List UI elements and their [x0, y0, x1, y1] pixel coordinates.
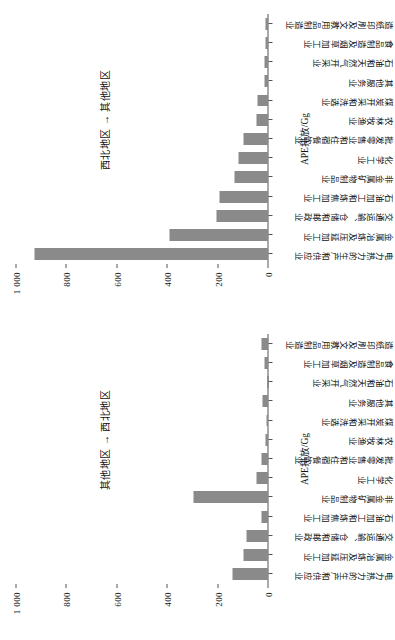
axis-tick-label: 1 000	[11, 592, 21, 614]
bar-column	[16, 411, 267, 430]
bar-column	[16, 91, 267, 110]
bar-column	[16, 488, 267, 507]
category-label: 石油加工和炼焦加工业	[272, 512, 392, 521]
category-tick	[268, 400, 272, 401]
category-label-cell: 化学工业	[272, 149, 392, 168]
value-axis-line-left	[267, 14, 268, 264]
plot-area-right: 02004006008001 000	[16, 334, 268, 584]
axis-tick	[217, 584, 218, 588]
category-tick	[268, 80, 272, 81]
axis-tick	[116, 584, 117, 588]
category-label: 煤炭开采和洗选业	[272, 416, 392, 425]
bar	[234, 171, 267, 183]
axis-tick	[65, 584, 66, 588]
category-label: 非金属矿物制品业	[272, 173, 392, 182]
category-label: 煤炭开采和洗选业	[272, 96, 392, 105]
category-label: 石油和天然气开采业	[272, 58, 392, 67]
bar	[246, 530, 267, 542]
category-tick	[268, 516, 272, 517]
bar-column	[16, 245, 267, 264]
bar	[264, 357, 268, 369]
category-tick	[268, 458, 272, 459]
category-label: 造纸印刷及文教用品制造业	[272, 339, 392, 348]
category-tick	[268, 253, 272, 254]
category-label: 食品制造及烟草加工业	[272, 358, 392, 367]
bar-column	[16, 430, 267, 449]
bar-column	[16, 168, 267, 187]
bar-column	[16, 392, 267, 411]
bar-column	[16, 565, 267, 584]
category-label: 化学工业	[272, 154, 392, 163]
panel-annotation-right: 其他地区 → 西北地区	[96, 390, 111, 491]
bar	[216, 210, 267, 222]
category-tick	[268, 477, 272, 478]
bar	[261, 338, 267, 350]
bar	[238, 152, 267, 164]
category-label: 食品制造及烟草加工业	[272, 38, 392, 47]
bar-column	[16, 334, 267, 353]
category-label-cell: 石油加工和炼焦加工业	[272, 507, 392, 526]
axis-tick-label: 800	[61, 272, 71, 287]
category-label: 电力热力的生产和供应业	[272, 570, 392, 579]
bar-column	[16, 110, 267, 129]
bar-column	[16, 469, 267, 488]
bar	[264, 75, 268, 87]
axis-tick-label: 1 000	[11, 272, 21, 294]
category-label: 金属冶炼及压延加工业	[272, 231, 392, 240]
bar-column	[16, 507, 267, 526]
category-label-cell: 非金属矿物制品业	[272, 488, 392, 507]
category-label: 农林牧渔业	[272, 435, 392, 444]
category-tick	[268, 119, 272, 120]
category-label-cell: 造纸印刷及文教用品制造业	[272, 14, 392, 33]
bar-column	[16, 52, 267, 71]
bar-column	[16, 546, 267, 565]
axis-tick	[267, 264, 268, 268]
category-tick	[268, 439, 272, 440]
bar	[261, 511, 267, 523]
category-label-cell: 非金属矿物制品业	[272, 168, 392, 187]
category-label-cell: 农林牧渔业	[272, 430, 392, 449]
axis-tick	[15, 584, 16, 588]
category-tick	[268, 362, 272, 363]
category-label-cell: 化学工业	[272, 469, 392, 488]
chart-panel-northwest-to-other: 02004006008001 000 电力热力的生产和供应业金属冶炼及压延加工业…	[0, 0, 395, 320]
category-tick	[268, 23, 272, 24]
bar	[262, 395, 267, 407]
category-tick	[268, 61, 272, 62]
category-label-cell: 电力热力的生产和供应业	[272, 245, 392, 264]
category-label: 农林牧渔业	[272, 115, 392, 124]
axis-tick-label: 800	[61, 592, 71, 607]
category-label-cell: 交通运输、仓储和邮政业	[272, 526, 392, 545]
category-label: 电力热力的生产和供应业	[272, 250, 392, 259]
category-label: 批发零售业和住宿餐饮业	[272, 135, 392, 144]
category-label: 其他服务业	[272, 77, 392, 86]
category-label-cell: 石油加工和炼焦加工业	[272, 187, 392, 206]
axis-title-left: APE排放/Gg	[296, 14, 310, 264]
panel-annotation-left: 西北地区 → 其他地区	[96, 70, 111, 171]
category-labels-right: 电力热力的生产和供应业金属冶炼及压延加工业交通运输、仓储和邮政业石油加工和炼焦加…	[272, 334, 392, 584]
category-tick	[268, 573, 272, 574]
category-label: 金属冶炼及压延加工业	[272, 551, 392, 560]
axis-tick	[267, 584, 268, 588]
bar-column	[16, 33, 267, 52]
axis-tick-label: 600	[112, 592, 122, 607]
category-tick	[268, 381, 272, 382]
axis-tick-label: 0	[263, 592, 273, 597]
bar-series-right	[16, 334, 267, 584]
category-label: 造纸印刷及文教用品制造业	[272, 19, 392, 28]
axis-tick	[116, 264, 117, 268]
category-label-cell: 电力热力的生产和供应业	[272, 565, 392, 584]
category-tick	[268, 554, 272, 555]
category-tick	[268, 157, 272, 158]
category-label-cell: 农林牧渔业	[272, 110, 392, 129]
category-label: 非金属矿物制品业	[272, 493, 392, 502]
category-tick	[268, 138, 272, 139]
bar-column	[16, 187, 267, 206]
category-label-cell: 食品制造及烟草加工业	[272, 33, 392, 52]
bar	[243, 133, 267, 145]
bar	[256, 472, 267, 484]
bar	[219, 191, 267, 203]
bar	[256, 114, 267, 126]
axis-tick	[166, 264, 167, 268]
bar-column	[16, 206, 267, 225]
